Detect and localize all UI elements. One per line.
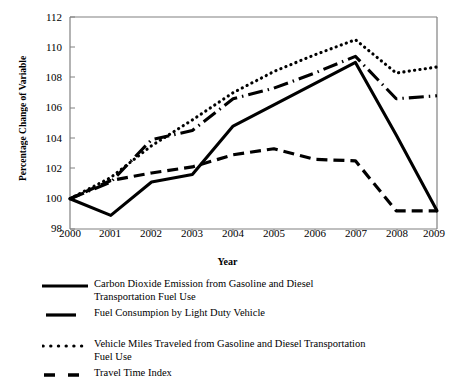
solid-line-icon (42, 278, 90, 290)
legend-label: Fuel Consumpion by Light Duty Vehicle (94, 307, 265, 320)
legend-label: Carbon Dioxide Emission from Gasoline an… (94, 278, 313, 303)
plot-frame (70, 17, 437, 229)
series-line-vehicle-miles-traveled (70, 40, 437, 199)
figure: Percentage Change of Variable 112 110 10… (0, 0, 455, 391)
x-axis-title: Year (0, 256, 455, 267)
chart-legend: Carbon Dioxide Emission from Gasoline an… (0, 276, 455, 391)
x-axis-ticks (110, 229, 397, 234)
legend-item: Carbon Dioxide Emission from Gasoline an… (42, 278, 452, 303)
chart-svg (0, 0, 455, 252)
series-line-travel-time-index (70, 149, 437, 211)
chart-plot-area: Percentage Change of Variable 112 110 10… (0, 0, 455, 252)
legend-label: Vehicle Miles Traveled from Gasoline and… (94, 338, 366, 363)
dashed-line-icon (42, 367, 90, 379)
legend-label: Travel Time Index (94, 367, 172, 380)
dotted-line-icon (42, 338, 90, 350)
legend-item: Fuel Consumpion by Light Duty Vehicle (42, 307, 452, 320)
solid-short-line-icon (42, 307, 90, 319)
legend-item: Vehicle Miles Traveled from Gasoline and… (42, 338, 452, 363)
legend-item: Travel Time Index (42, 367, 452, 380)
